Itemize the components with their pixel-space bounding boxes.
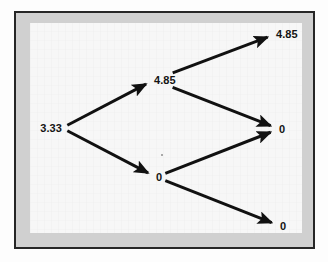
- node-label-n0: 3.33: [40, 123, 62, 134]
- lattice-edge-down: [67, 131, 148, 173]
- node-label-n1u: 4.85: [154, 75, 176, 86]
- node-label-n2uu: 4.85: [276, 29, 298, 40]
- lattice-edge-up: [67, 84, 146, 125]
- node-label-n2dd: 0: [280, 221, 286, 232]
- lattice-edge-down: [165, 181, 271, 223]
- lattice-edge-up: [173, 37, 268, 73]
- figure-root: 3.334.8504.8500: [0, 0, 328, 262]
- node-label-n2ud: 0: [279, 124, 285, 135]
- lattice-edge-down: [173, 87, 271, 125]
- node-label-n1d: 0: [156, 172, 162, 183]
- lattice-edge-up: [165, 132, 270, 173]
